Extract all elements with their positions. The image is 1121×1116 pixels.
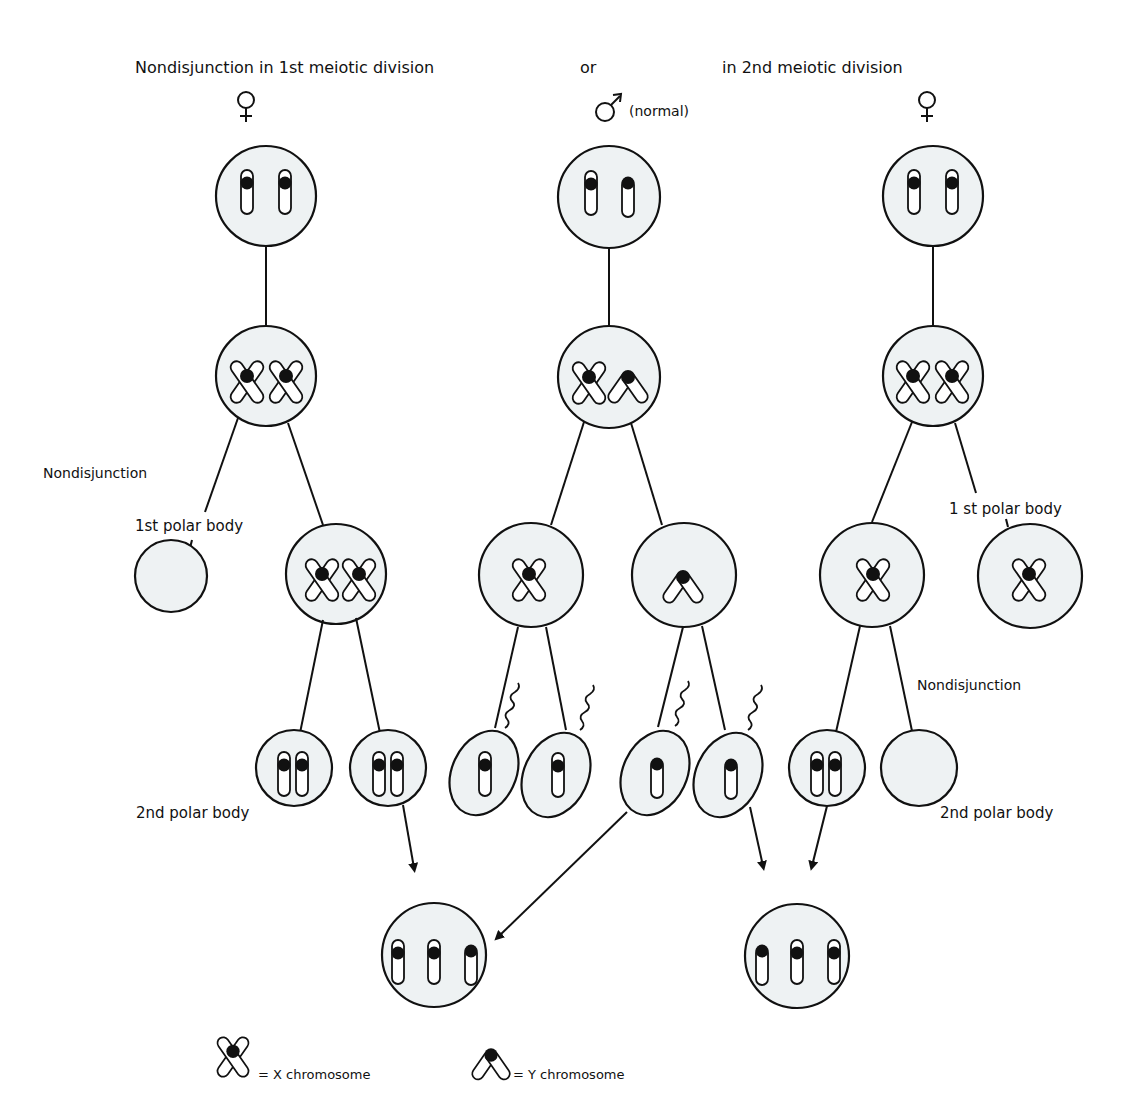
- second-polar-body-right: [881, 730, 957, 806]
- title-first-division: Nondisjunction in 1st meiotic division: [135, 58, 434, 77]
- sperm-tail-2: [580, 685, 594, 730]
- sperm-y-1: [607, 720, 702, 827]
- sperm-x-2: [508, 722, 603, 829]
- sperm-x-1: [436, 720, 531, 827]
- label-first-polar-body-right: 1 st polar body: [949, 500, 1062, 518]
- secondary-spermatocyte-x: [479, 523, 583, 627]
- first-polar-body-right: [978, 524, 1082, 628]
- legend-y-chromosome-icon: [470, 1048, 512, 1081]
- first-polar-body-left: [135, 540, 207, 612]
- primary-oocyte-left: [216, 326, 316, 426]
- primary-spermatocyte: [558, 326, 660, 428]
- egg-xx-left: [350, 730, 426, 806]
- sperm-y-2: [680, 722, 775, 829]
- sperm-tail-1: [505, 683, 519, 728]
- sperm-tail-4: [748, 685, 762, 730]
- label-first-polar-body-left: 1st polar body: [135, 517, 243, 535]
- secondary-oocyte-left: [286, 524, 386, 624]
- label-nondisjunction-right: Nondisjunction: [917, 677, 1021, 693]
- title-second-division: in 2nd meiotic division: [722, 58, 903, 77]
- female-symbol-left-icon: [238, 92, 254, 122]
- female-symbol-right-icon: [919, 92, 935, 122]
- male-normal-note: (normal): [629, 103, 689, 119]
- legend: = X chromosome = Y chromosome: [215, 1035, 624, 1082]
- sperm-tail-3: [675, 681, 689, 726]
- male-symbol-icon: [596, 94, 621, 121]
- legend-x-label: = X chromosome: [258, 1067, 370, 1082]
- secondary-spermatocyte-y: [632, 523, 736, 627]
- label-second-polar-body-left: 2nd polar body: [136, 804, 250, 822]
- nondisjunction-diagram: Nondisjunction in 1st meiotic division o…: [0, 0, 1121, 1116]
- label-nondisjunction-left: Nondisjunction: [43, 465, 147, 481]
- zygote-xxy-right: [745, 904, 849, 1008]
- second-polar-body-left: [256, 730, 332, 806]
- title-or: or: [580, 58, 597, 77]
- label-second-polar-body-right: 2nd polar body: [940, 804, 1054, 822]
- oogonium-left: [216, 146, 316, 246]
- secondary-oocyte-right: [820, 523, 924, 627]
- zygote-xxy-left: [382, 903, 486, 1007]
- legend-y-label: = Y chromosome: [513, 1067, 625, 1082]
- egg-xx-right: [789, 730, 865, 806]
- oogonium-right: [883, 146, 983, 246]
- legend-x-chromosome-icon: [215, 1035, 250, 1079]
- primary-oocyte-right: [883, 326, 983, 426]
- spermatogonium: [558, 146, 660, 248]
